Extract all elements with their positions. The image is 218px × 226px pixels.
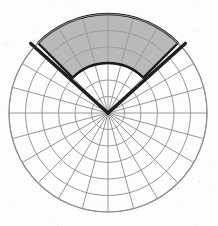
polar-diagram-figure <box>0 0 218 226</box>
polar-grid-svg <box>0 0 218 226</box>
